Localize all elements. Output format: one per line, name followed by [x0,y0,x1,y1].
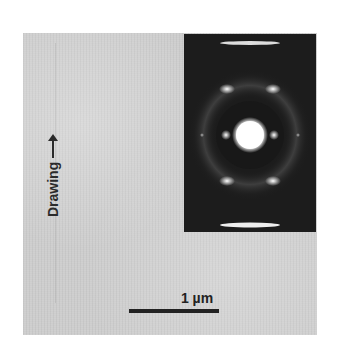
diffraction-pattern-inset [184,34,316,232]
diffraction-pattern-graphic [184,34,316,232]
scale-bar [129,309,219,313]
micrograph-panel: Drawing [23,33,317,335]
arrow-up-icon [52,140,54,158]
drawing-direction-label: Drawing [45,140,61,217]
drawing-text: Drawing [45,162,61,217]
scale-bar-label: 1 µm [153,290,241,306]
